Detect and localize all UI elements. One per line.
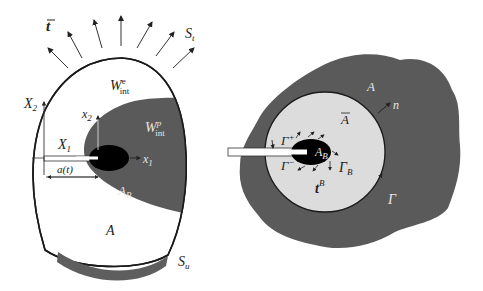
body-label: A — [105, 223, 115, 238]
inner-region-label: A — [340, 112, 349, 127]
displacement-boundary-label: Su — [178, 254, 190, 271]
contour-label: Γ — [387, 192, 397, 207]
left-panel: t St Weint Wpint X2 X1 x2 x1 a(t) AB A S… — [23, 16, 195, 281]
normal-label: n — [393, 98, 399, 112]
outer-region-label: A — [366, 79, 375, 94]
fracture-mechanics-diagram: t St Weint Wpint X2 X1 x2 x1 a(t) AB A S… — [0, 0, 483, 291]
traction-boundary-label: St — [185, 26, 195, 43]
right-panel: A n A Γ+ Γ− AB ΓB tB Γ — [228, 54, 460, 248]
global-y-axis-label: X2 — [23, 96, 38, 113]
crack-length-label: a(t) — [57, 163, 73, 176]
